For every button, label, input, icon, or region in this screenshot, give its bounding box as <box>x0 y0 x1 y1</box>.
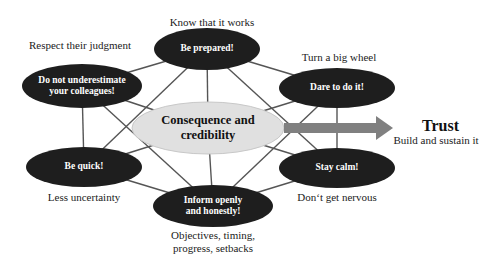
node-label-line1: Do not underestimate <box>22 75 142 86</box>
node-label-line1: Inform openly <box>163 195 263 206</box>
node-label-line2: your colleagues! <box>22 86 142 97</box>
center-label-line1: Consequence and <box>133 113 283 128</box>
trust-title: Trust <box>422 117 459 135</box>
caption-line1: Objectives, timing, <box>163 229 263 242</box>
trust-subtitle: Build and sustain it <box>386 134 486 147</box>
caption-line2: progress, setbacks <box>163 242 263 255</box>
trust-arrow <box>284 116 393 140</box>
node-label-line2: and honestly! <box>163 206 263 217</box>
caption-do-not-underestimate: Respect their judgment <box>20 39 140 52</box>
node-label-dare-to-do-it: Dare to do it! <box>287 82 387 93</box>
center-label-line2: credibility <box>133 128 283 143</box>
caption-stay-calm: Don‘t get nervous <box>287 191 387 204</box>
center-label: Consequence and credibility <box>133 113 283 143</box>
caption-be-quick: Less uncertainty <box>34 191 134 204</box>
node-label-be-prepared: Be prepared! <box>157 43 257 54</box>
node-label-stay-calm: Stay calm! <box>287 162 387 173</box>
caption-be-prepared: Know that it works <box>162 16 262 29</box>
caption-dare-to-do-it: Turn a big wheel <box>289 51 389 64</box>
caption-inform-openly: Objectives, timing, progress, setbacks <box>163 229 263 255</box>
node-label-be-quick: Be quick! <box>34 161 134 172</box>
node-label-inform-openly: Inform openly and honestly! <box>163 195 263 217</box>
node-label-do-not-underestimate: Do not underestimate your colleagues! <box>22 75 142 97</box>
